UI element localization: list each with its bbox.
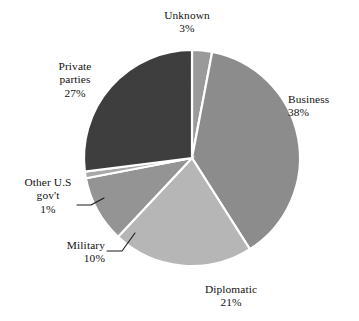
slice-label-unknown-name: Unknown [141,9,233,22]
slice-label-diplomatic-name: Diplomatic [181,283,281,296]
slice-label-unknown: Unknown 3% [141,9,233,36]
slice-label-business-value: 38% [288,106,358,119]
slice-label-business-name: Business [288,93,358,106]
slice-label-private-parties: Private parties 27% [36,60,114,100]
slice-label-diplomatic: Diplomatic 21% [181,283,281,310]
slice-label-business: Business 38% [288,93,358,120]
pie-chart: Unknown 3% Business 38% Diplomatic 21% M… [0,0,359,321]
pie-slices-group [84,50,300,266]
slice-label-military-name: Military [31,239,105,252]
slice-label-military-value: 10% [31,252,105,265]
slice-label-other-us-gov: Other U.S gov't 1% [8,176,88,216]
slice-label-other-us-gov-value: 1% [8,203,88,216]
slice-label-unknown-value: 3% [141,22,233,35]
slice-label-military: Military 10% [31,239,105,266]
slice-label-diplomatic-value: 21% [181,296,281,309]
pie-chart-canvas [0,0,359,321]
slice-label-private-parties-name-line2: parties [36,73,114,86]
slice-label-private-parties-value: 27% [36,87,114,100]
slice-label-private-parties-name-line1: Private [36,60,114,73]
slice-label-other-us-gov-name-line1: Other U.S [8,176,88,189]
slice-label-other-us-gov-name-line2: gov't [8,189,88,202]
